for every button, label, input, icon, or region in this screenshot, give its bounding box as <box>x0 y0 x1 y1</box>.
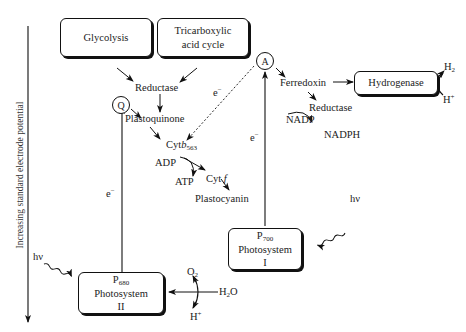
plastocyanin-label: Plastocyanin <box>195 194 249 205</box>
plastoquinone-label: Plastoquinone <box>125 114 185 125</box>
glycolysis-box: Glycolysis <box>60 18 152 57</box>
a-circle: A <box>256 52 274 70</box>
photosystem-1-box: P700 Photosystem I <box>228 228 302 270</box>
e-right-label: e− <box>250 132 259 144</box>
h2o-label: H2O <box>219 287 238 299</box>
tca-cycle-box: Tricarboxylic acid cycle <box>157 18 249 57</box>
hydrogenase-box: Hydrogenase <box>354 71 438 95</box>
nadph-label: NADPH <box>324 130 360 141</box>
ps1-numeral: I <box>263 256 267 269</box>
adp-label: ADP <box>155 158 176 169</box>
h2-label: H2 <box>444 62 455 74</box>
hplus-right-label: H+ <box>443 94 455 106</box>
tca-label-line2: acid cycle <box>182 38 224 51</box>
p700-label: P700 <box>257 229 273 244</box>
e-left-label: e− <box>106 188 115 200</box>
hv-left-label: hν <box>33 252 43 263</box>
e-dashed-label: e− <box>213 87 222 99</box>
hydrogenase-label: Hydrogenase <box>368 76 423 89</box>
reductase-right-label: Reductase <box>309 103 352 114</box>
atp-label: ATP <box>175 177 194 188</box>
tca-label-line1: Tricarboxylic <box>175 24 232 37</box>
reductase-top-label: Reductase <box>135 83 178 94</box>
photosystem-2-box: P680 Photosystem II <box>78 272 164 314</box>
ferredoxin-label: Ferredoxin <box>280 78 326 89</box>
p680-label: P680 <box>113 273 129 288</box>
axis-label: Increasing standard electrode potential <box>15 95 25 255</box>
ps1-label: Photosystem <box>238 243 292 256</box>
ps2-numeral: II <box>118 300 125 313</box>
q-circle: Q <box>112 96 130 114</box>
cyt-f-label: Cyt f <box>206 174 227 185</box>
cyt-b563-label: Cytb563 <box>166 140 197 152</box>
hv-right-label: hν <box>350 194 360 205</box>
hplus-bottom-label: H+ <box>190 311 202 323</box>
nadp-label: NADP <box>286 115 315 126</box>
glycolysis-label: Glycolysis <box>84 31 129 44</box>
o2-label: O2 <box>187 267 198 279</box>
ps2-label: Photosystem <box>94 287 148 300</box>
